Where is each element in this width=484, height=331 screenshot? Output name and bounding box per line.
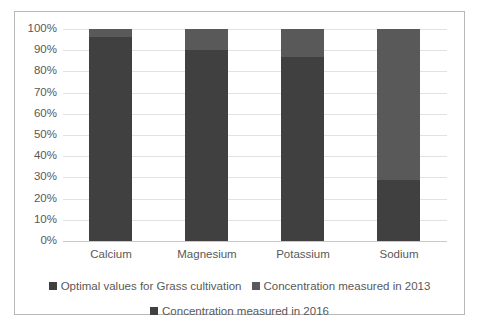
legend-swatch-icon: [49, 282, 57, 290]
y-axis-tick-label: 20%: [34, 193, 57, 205]
y-axis-tick-label: 50%: [34, 129, 57, 141]
plot-area: 100%90%80%70%60%50%40%30%20%10%0% Calciu…: [63, 29, 447, 241]
y-axis-tick-label: 100%: [28, 23, 57, 35]
chart-legend: Optimal values for Grass cultivationConc…: [15, 274, 464, 324]
bar-group[interactable]: Calcium: [89, 29, 132, 241]
bar-group[interactable]: Potassium: [281, 29, 324, 241]
x-axis-tick-label: Potassium: [276, 249, 330, 261]
y-axis-tick-label: 60%: [34, 108, 57, 120]
bars-layer: CalciumMagnesiumPotassiumSodium: [63, 29, 447, 241]
bar-stack[interactable]: [281, 29, 324, 241]
bar-group[interactable]: Magnesium: [185, 29, 228, 241]
legend-label: Concentration measured in 2016: [162, 305, 329, 317]
y-axis-tick-label: 0%: [40, 235, 57, 247]
y-axis-tick-label: 90%: [34, 44, 57, 56]
legend-item[interactable]: Optimal values for Grass cultivation: [49, 278, 242, 296]
x-axis-tick-label: Calcium: [90, 249, 132, 261]
legend-swatch-icon: [252, 282, 260, 290]
y-axis-tick-label: 80%: [34, 66, 57, 78]
bar-segment-2013[interactable]: [281, 29, 324, 57]
bar-segment-2013[interactable]: [89, 29, 132, 37]
bar-stack[interactable]: [377, 29, 420, 241]
y-axis-tick-label: 70%: [34, 87, 57, 99]
bar-segment-2013[interactable]: [185, 29, 228, 50]
y-axis-tick-label: 40%: [34, 150, 57, 162]
gridline: [63, 241, 447, 242]
legend-item[interactable]: Concentration measured in 2016: [150, 303, 329, 321]
legend-label: Concentration measured in 2013: [264, 280, 431, 292]
bar-group[interactable]: Sodium: [377, 29, 420, 241]
bar-segment-2016[interactable]: [185, 50, 228, 241]
bar-segment-2013[interactable]: [377, 29, 420, 180]
bar-segment-2016[interactable]: [281, 57, 324, 241]
legend-label: Optimal values for Grass cultivation: [61, 280, 242, 292]
legend-row: Concentration measured in 2016: [15, 299, 464, 324]
y-axis-tick-label: 30%: [34, 172, 57, 184]
x-axis-tick-label: Magnesium: [177, 249, 236, 261]
x-axis-tick-label: Sodium: [379, 249, 418, 261]
legend-row: Optimal values for Grass cultivationConc…: [15, 274, 464, 299]
legend-swatch-icon: [150, 307, 158, 315]
bar-segment-2016[interactable]: [89, 37, 132, 241]
bar-stack[interactable]: [89, 29, 132, 241]
bar-stack[interactable]: [185, 29, 228, 241]
bar-segment-2016[interactable]: [377, 180, 420, 241]
y-axis-tick-label: 10%: [34, 214, 57, 226]
chart-frame: 100%90%80%70%60%50%40%30%20%10%0% Calciu…: [14, 11, 465, 315]
legend-item[interactable]: Concentration measured in 2013: [252, 278, 431, 296]
